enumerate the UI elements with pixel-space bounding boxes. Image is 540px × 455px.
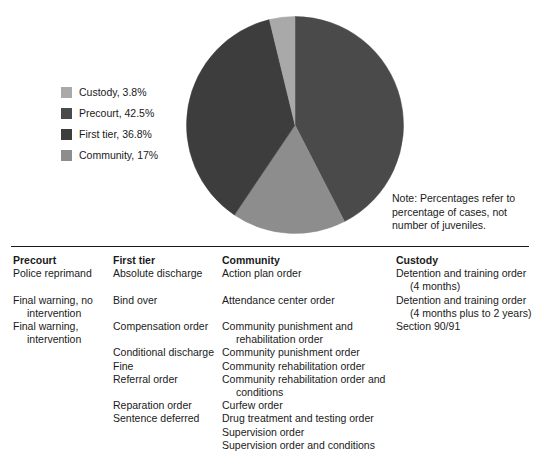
table-item: Absolute discharge — [113, 267, 221, 280]
table-item: Community rehabilitation order andcondit… — [222, 373, 394, 399]
legend-item-community: Community, 17% — [61, 145, 206, 165]
table-item: Community punishment andrehabilitation o… — [222, 320, 394, 346]
table-item: Reparation order — [113, 399, 221, 412]
table-item: Fine — [113, 360, 221, 373]
legend-item-precourt: Precourt, 42.5% — [61, 103, 206, 123]
table-item-continuation: (4 months) — [396, 280, 540, 293]
table-item: Final warning,intervention — [13, 320, 113, 346]
table-item: Supervision order — [222, 426, 394, 439]
table-item-text: Bind over — [113, 294, 157, 306]
legend-item-first-tier: First tier, 36.8% — [61, 124, 206, 144]
table-item: Community punishment order — [222, 346, 394, 359]
table-item: Section 90/91 — [396, 320, 540, 333]
table-item-text: Reparation order — [113, 399, 192, 411]
legend-swatch-precourt — [61, 108, 72, 119]
legend-swatch-custody — [61, 87, 72, 98]
table-column-header-first-tier: First tier — [113, 254, 221, 267]
legend-swatch-first-tier — [61, 129, 72, 140]
table-column-header-custody: Custody — [396, 254, 540, 267]
table-item: Final warning, nointervention — [13, 294, 113, 320]
pie-chart-svg — [186, 16, 404, 234]
table-item: Detention and training order(4 months) — [396, 267, 540, 293]
table-item: Police reprimand — [13, 267, 113, 280]
table-item: Detention and training order(4 months pl… — [396, 294, 540, 320]
table-item-text: Community rehabilitation order and — [222, 373, 385, 385]
table-item-text: Referral order — [113, 373, 178, 385]
table-item-continuation: conditions — [222, 386, 394, 399]
table-column-community: Community Action plan orderAttendance ce… — [222, 254, 394, 452]
table-column-header-precourt: Precourt — [13, 254, 113, 267]
table-column-header-community: Community — [222, 254, 394, 267]
table-item: Compensation order — [113, 320, 221, 333]
disposals-table: Precourt Police reprimandFinal warning, … — [0, 246, 540, 455]
table-column-first-tier: First tier Absolute dischargeBind overCo… — [113, 254, 221, 426]
table-item-text: Final warning, — [13, 320, 78, 332]
table-item-text: Sentence deferred — [113, 412, 199, 424]
table-item: Conditional discharge — [113, 346, 221, 359]
table-item: Supervision order and conditions — [222, 439, 394, 452]
table-item-text: Final warning, no — [13, 294, 93, 306]
table-item-continuation: (4 months plus to 2 years) — [396, 307, 540, 320]
pie-slice-group — [186, 17, 403, 234]
table-column-custody: Custody Detention and training order(4 m… — [396, 254, 540, 333]
figure-area: Custody, 3.8% Precourt, 42.5% First tier… — [0, 0, 540, 243]
table-item-text: Attendance center order — [222, 294, 335, 306]
table-item: Attendance center order — [222, 294, 394, 307]
legend-label-custody: Custody, 3.8% — [79, 86, 147, 98]
table-item-continuation: rehabilitation order — [222, 333, 394, 346]
table-item: Curfew order — [222, 399, 394, 412]
legend-label-first-tier: First tier, 36.8% — [79, 128, 152, 140]
table-item: Bind over — [113, 294, 221, 307]
table-item-text: Curfew order — [222, 399, 283, 411]
table-item: Drug treatment and testing order — [222, 412, 394, 425]
table-column-body-community: Action plan orderAttendance center order… — [222, 267, 394, 452]
table-item-text: Supervision order and conditions — [222, 439, 375, 451]
table-item-text: Police reprimand — [13, 267, 92, 279]
table-item-text: Action plan order — [222, 267, 301, 279]
table-item-text: Detention and training order — [396, 294, 526, 306]
table-top-rule — [11, 246, 529, 247]
table-item: Community rehabilitation order — [222, 360, 394, 373]
legend-label-precourt: Precourt, 42.5% — [79, 107, 154, 119]
table-item-continuation: intervention — [13, 333, 113, 346]
table-item-text: Supervision order — [222, 426, 304, 438]
table-column-body-precourt: Police reprimandFinal warning, nointerve… — [13, 267, 113, 346]
table-item: Referral order — [113, 373, 221, 386]
table-column-precourt: Precourt Police reprimandFinal warning, … — [13, 254, 113, 346]
table-item-text: Section 90/91 — [396, 320, 460, 332]
legend-item-custody: Custody, 3.8% — [61, 82, 206, 102]
table-item-text: Absolute discharge — [113, 267, 202, 279]
chart-note: Note: Percentages refer to percentage of… — [392, 192, 540, 233]
table-item-text: Detention and training order — [396, 267, 526, 279]
table-item-continuation: intervention — [13, 307, 113, 320]
table-item-text: Drug treatment and testing order — [222, 412, 374, 424]
chart-note-line-2: percentage of cases, not — [392, 206, 540, 220]
table-column-body-first-tier: Absolute dischargeBind overCompensation … — [113, 267, 221, 425]
legend-label-community: Community, 17% — [79, 149, 158, 161]
table-item-text: Compensation order — [113, 320, 208, 332]
table-item-text: Community punishment and — [222, 320, 353, 332]
table-item-text: Conditional discharge — [113, 346, 214, 358]
table-item-text: Community rehabilitation order — [222, 360, 365, 372]
chart-note-line-1: Note: Percentages refer to — [392, 192, 540, 206]
chart-legend: Custody, 3.8% Precourt, 42.5% First tier… — [61, 82, 206, 166]
pie-chart — [186, 16, 404, 234]
table-column-body-custody: Detention and training order(4 months)De… — [396, 267, 540, 333]
table-item-text: Fine — [113, 360, 133, 372]
table-item: Action plan order — [222, 267, 394, 280]
chart-note-line-3: number of juveniles. — [392, 219, 540, 233]
table-item-text: Community punishment order — [222, 346, 360, 358]
legend-swatch-community — [61, 150, 72, 161]
table-item: Sentence deferred — [113, 412, 221, 425]
